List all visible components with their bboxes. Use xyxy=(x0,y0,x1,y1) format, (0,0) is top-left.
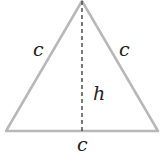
label-left-side: c xyxy=(33,40,44,59)
label-height: h xyxy=(93,84,105,103)
label-base: c xyxy=(77,135,88,154)
label-right-side: c xyxy=(119,40,130,59)
